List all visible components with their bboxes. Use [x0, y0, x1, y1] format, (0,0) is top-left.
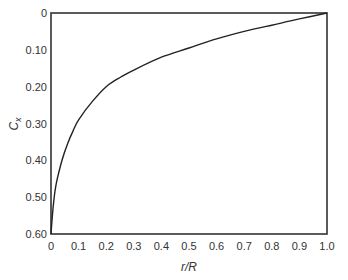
- y-tick-label: 0.20: [26, 81, 47, 93]
- x-axis-ticks: 00.10.20.30.40.50.60.70.80.91.0: [48, 240, 335, 252]
- x-tick-label: 0.2: [99, 240, 114, 252]
- plot-area: [51, 13, 327, 234]
- x-tick-label: 0.8: [264, 240, 279, 252]
- y-axis-ticks: 00.100.200.300.400.500.60: [26, 7, 47, 240]
- x-tick-label: 0.1: [71, 240, 86, 252]
- y-axis-label: Cx: [7, 117, 23, 131]
- series-line: [51, 13, 327, 234]
- x-tick-label: 0.3: [126, 240, 141, 252]
- x-tick-label: 0.5: [181, 240, 196, 252]
- y-tick-label: 0.10: [26, 44, 47, 56]
- x-tick-label: 0: [48, 240, 54, 252]
- x-tick-label: 0.7: [237, 240, 252, 252]
- plot-frame: [51, 13, 327, 234]
- y-tick-label: 0.50: [26, 191, 47, 203]
- chart: 00.10.20.30.40.50.60.70.80.91.0 00.100.2…: [0, 0, 348, 280]
- x-tick-label: 0.9: [292, 240, 307, 252]
- x-tick-label: 0.6: [209, 240, 224, 252]
- x-axis-label: r/R: [181, 260, 197, 274]
- y-tick-label: 0.60: [26, 228, 47, 240]
- x-tick-label: 0.4: [154, 240, 169, 252]
- y-tick-label: 0: [41, 7, 47, 19]
- y-tick-label: 0.40: [26, 154, 47, 166]
- x-tick-label: 1.0: [319, 240, 334, 252]
- y-tick-label: 0.30: [26, 118, 47, 130]
